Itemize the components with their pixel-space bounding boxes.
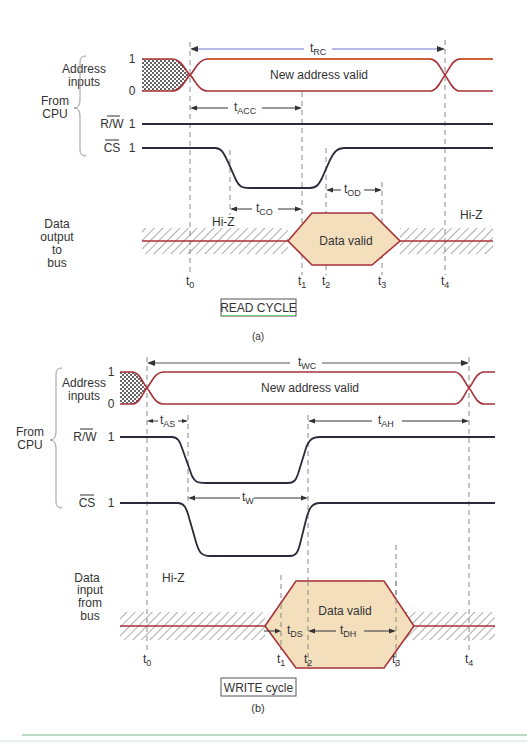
write-caption-text: WRITE cycle	[224, 681, 294, 695]
read-data-valid-text: Data valid	[319, 234, 372, 248]
write-rw-label: R/W	[73, 430, 97, 444]
read-t4-label: t4	[441, 274, 449, 290]
write-address-valid-text: New address valid	[261, 381, 359, 395]
write-cpu-brace	[50, 368, 62, 508]
read-data-signal	[142, 213, 493, 265]
read-t3-label: t3	[378, 274, 386, 290]
read-address-low-level: 0	[129, 84, 136, 98]
write-t0-label: t0	[143, 652, 151, 668]
read-address-valid-text: New address valid	[270, 68, 368, 82]
write-twc-label: tWC	[298, 355, 317, 371]
read-hiz-right: Hi-Z	[460, 208, 483, 222]
write-data-valid-text: Data valid	[318, 604, 371, 618]
write-hiz-left: Hi-Z	[162, 571, 185, 585]
read-cs-signal	[142, 148, 493, 188]
write-from-label: From	[16, 425, 44, 439]
write-t4-label: t4	[465, 652, 473, 668]
write-sub-caption: (b)	[251, 702, 264, 714]
read-t0-label: t0	[186, 274, 194, 290]
write-tw-label: tW	[242, 490, 254, 506]
write-address-label-1: Address	[62, 376, 106, 390]
read-from-label: From	[41, 94, 69, 108]
read-cycle-diagram: tRC New address valid Address inputs 1 0…	[40, 40, 493, 342]
read-data-label-2: output	[40, 230, 74, 244]
read-sub-caption: (a)	[252, 331, 264, 342]
read-cs-level: 1	[129, 141, 136, 155]
write-cs-signal	[120, 503, 495, 556]
read-hiz-left: Hi-Z	[212, 215, 235, 229]
write-cs-level: 1	[108, 496, 115, 510]
write-rw-level: 1	[108, 430, 115, 444]
read-data-label-3: to	[52, 243, 62, 257]
read-rw-level: 1	[129, 117, 136, 131]
write-address-high-level: 1	[108, 365, 115, 379]
read-caption-text: READ CYCLE	[220, 301, 297, 315]
write-address-low-level: 0	[108, 397, 115, 411]
write-cpu-label: CPU	[17, 438, 42, 452]
write-address-label-2: inputs	[68, 389, 100, 403]
timing-diagram: tRC New address valid Address inputs 1 0…	[0, 0, 527, 748]
write-data-label-3: from	[78, 596, 102, 610]
write-data-label-2: input	[77, 583, 104, 597]
read-t1-label: t1	[298, 274, 306, 290]
read-rw-label: R/W	[100, 117, 124, 131]
read-address-label-1: Address	[62, 62, 106, 76]
read-address-label-2: inputs	[68, 75, 100, 89]
write-cs-label: CS	[79, 496, 96, 510]
read-address-high-level: 1	[129, 52, 136, 66]
read-data-label-1: Data	[44, 217, 70, 231]
read-trc-label: tRC	[310, 41, 327, 57]
read-t2-label: t2	[322, 274, 330, 290]
write-tah-label: tAH	[378, 413, 394, 429]
read-tod-label: tOD	[344, 182, 361, 198]
read-cpu-label: CPU	[42, 107, 67, 121]
write-t1-label: t1	[277, 652, 285, 668]
read-data-label-4: bus	[47, 256, 66, 270]
write-tas-label: tAS	[160, 413, 175, 429]
write-cycle-diagram: tWC New address valid Address inputs 1 0…	[16, 355, 495, 714]
read-tco-label: tCO	[256, 201, 273, 217]
read-cs-label: CS	[104, 141, 121, 155]
read-tacc-label: tACC	[234, 100, 257, 116]
write-data-label-4: bus	[80, 609, 99, 623]
